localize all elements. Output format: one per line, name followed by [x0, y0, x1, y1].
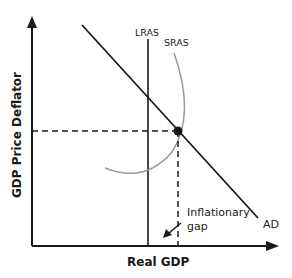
- ad-line: [82, 25, 258, 218]
- x-axis: [32, 241, 279, 251]
- x-axis-label: Real GDP: [127, 255, 190, 269]
- equilibrium-point: [174, 127, 183, 136]
- sras-curve: [105, 53, 185, 173]
- y-axis-label: GDP Price Deflator: [10, 72, 24, 198]
- gap-label-line2: gap: [187, 220, 208, 233]
- y-axis-arrow-icon: [27, 16, 37, 28]
- ad-as-diagram: LRAS SRAS AD Inflationary gap Real GDP G…: [0, 0, 292, 278]
- x-axis-arrow-icon: [266, 241, 279, 251]
- sras-label: SRAS: [164, 37, 189, 48]
- ad-label: AD: [263, 218, 279, 231]
- lras-label: LRAS: [135, 27, 159, 38]
- gap-label-line1: Inflationary: [187, 206, 250, 219]
